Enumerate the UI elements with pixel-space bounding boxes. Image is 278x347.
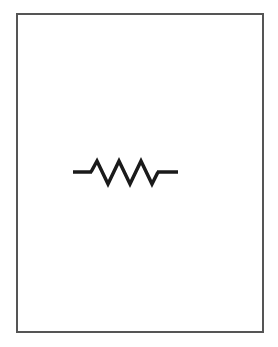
resistor-symbol <box>0 0 278 347</box>
resistor-zigzag <box>91 161 158 184</box>
